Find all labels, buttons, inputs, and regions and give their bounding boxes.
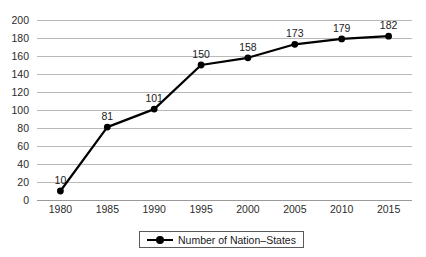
data-point-label: 173 bbox=[275, 28, 315, 39]
data-point-marker bbox=[245, 54, 252, 61]
x-axis-tick-label: 2010 bbox=[320, 203, 364, 215]
data-point-marker bbox=[385, 33, 392, 40]
data-point-marker bbox=[151, 106, 158, 113]
data-point-marker bbox=[291, 41, 298, 48]
gridline bbox=[37, 200, 412, 201]
y-axis-tick-label: 160 bbox=[0, 51, 29, 61]
x-axis-tick-label: 1990 bbox=[132, 203, 176, 215]
y-axis-tick-label: 120 bbox=[0, 87, 29, 97]
chart-legend[interactable]: Number of Nation–States bbox=[139, 231, 304, 248]
x-axis-tick-label: 1980 bbox=[38, 203, 82, 215]
y-axis-tick-label: 140 bbox=[0, 69, 29, 79]
y-axis-tick-label: 20 bbox=[0, 177, 29, 187]
data-point-marker bbox=[198, 62, 205, 69]
data-point-label: 182 bbox=[369, 20, 409, 31]
legend-entry-label: Number of Nation–States bbox=[178, 234, 296, 246]
y-axis-tick-label: 0 bbox=[0, 195, 29, 205]
data-point-label: 150 bbox=[181, 49, 221, 60]
series-number-of-nation-states bbox=[37, 20, 412, 200]
data-point-marker bbox=[338, 36, 345, 43]
data-point-label: 101 bbox=[134, 93, 174, 104]
data-point-label: 179 bbox=[322, 23, 362, 34]
y-axis-tick-label: 40 bbox=[0, 159, 29, 169]
data-point-marker bbox=[104, 124, 111, 131]
x-axis-tick-label: 1995 bbox=[179, 203, 223, 215]
y-axis-tick-label: 200 bbox=[0, 15, 29, 25]
x-axis-tick-label: 2005 bbox=[273, 203, 317, 215]
x-axis-tick-label: 2000 bbox=[226, 203, 270, 215]
legend-marker-icon bbox=[147, 235, 173, 245]
data-point-label: 158 bbox=[228, 42, 268, 53]
y-axis-tick-label: 60 bbox=[0, 141, 29, 151]
x-axis-tick-label: 2015 bbox=[367, 203, 411, 215]
line-chart: 020406080100120140160180200 108110115015… bbox=[0, 0, 426, 257]
y-axis-tick-label: 180 bbox=[0, 33, 29, 43]
y-axis-tick-label: 100 bbox=[0, 105, 29, 115]
y-axis-tick-label: 80 bbox=[0, 123, 29, 133]
data-point-label: 10 bbox=[40, 175, 80, 186]
x-axis-tick-label: 1985 bbox=[85, 203, 129, 215]
data-point-marker bbox=[57, 188, 64, 195]
plot-area: 1081101150158173179182 bbox=[37, 20, 412, 200]
x-axis-tick-labels: 19801985199019952000200520102015 bbox=[37, 203, 412, 217]
data-point-label: 81 bbox=[87, 111, 127, 122]
